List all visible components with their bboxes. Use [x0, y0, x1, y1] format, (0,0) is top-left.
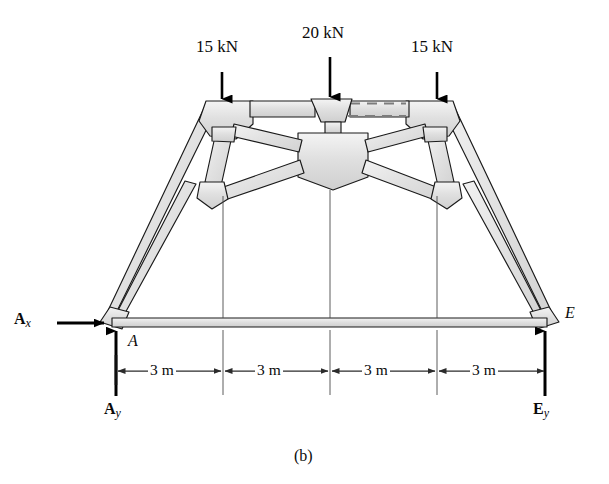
truss-figure: 15 kN 20 kN 15 kN Ax Ay Ey A E 3 m 3 m 3… — [0, 0, 609, 484]
reaction-symbol-ay: A — [104, 400, 116, 417]
member-top-chord-left — [250, 101, 315, 117]
load-label-center: 20 kN — [302, 24, 344, 41]
reaction-symbol-ax: A — [14, 310, 26, 327]
dimension-label-1: 3 m — [148, 362, 176, 378]
gusset-plate-centre — [298, 133, 368, 190]
node-label-e: E — [565, 305, 575, 321]
member-diagonal-upper-right — [365, 124, 428, 152]
reaction-subscript-ax: x — [26, 316, 31, 330]
member-diagonal-upper-left — [231, 124, 302, 152]
truss-structure — [100, 99, 559, 329]
dimension-label-2: 3 m — [255, 362, 283, 378]
member-centre-hanger — [325, 122, 341, 134]
member-right-leg-inner — [463, 181, 547, 322]
figure-caption: (b) — [294, 448, 313, 464]
reaction-label-ax: Ax — [14, 311, 31, 327]
dimension-label-4: 3 m — [470, 362, 498, 378]
member-left-leg-inner — [112, 181, 196, 322]
reaction-subscript-ey: y — [544, 406, 549, 420]
gusset-plate-post-top-left — [212, 127, 236, 142]
member-left-leg-outer — [104, 104, 219, 319]
node-label-a: A — [128, 333, 138, 349]
member-right-leg-outer — [440, 104, 555, 319]
reaction-symbol-ey: E — [533, 400, 544, 417]
gusset-plate-lower-right — [431, 182, 462, 209]
gusset-plate-post-top-right — [423, 127, 447, 142]
truss-diagram-svg — [0, 0, 609, 484]
load-arrows — [222, 57, 437, 99]
dimension-label-3: 3 m — [362, 362, 390, 378]
reaction-subscript-ay: y — [116, 406, 121, 420]
member-bottom-chord — [112, 318, 547, 327]
reaction-label-ay: Ay — [104, 401, 121, 417]
load-label-left: 15 kN — [196, 38, 238, 55]
member-diagonal-lower-left — [215, 160, 304, 202]
gusset-plate-c-top — [311, 99, 352, 122]
load-label-right: 15 kN — [411, 38, 453, 55]
reaction-label-ey: Ey — [533, 401, 549, 417]
